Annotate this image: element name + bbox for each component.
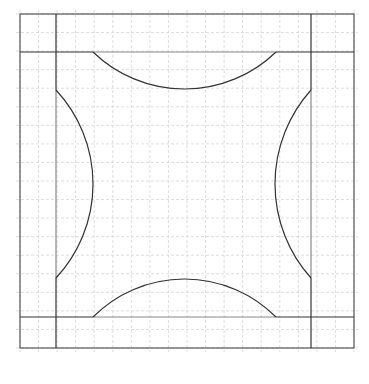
right-arc <box>275 90 311 278</box>
bottom-arc <box>93 279 276 317</box>
diagram-canvas <box>0 0 369 384</box>
top-arc <box>93 52 276 89</box>
background-grid <box>16 10 358 352</box>
left-arc <box>56 90 93 278</box>
